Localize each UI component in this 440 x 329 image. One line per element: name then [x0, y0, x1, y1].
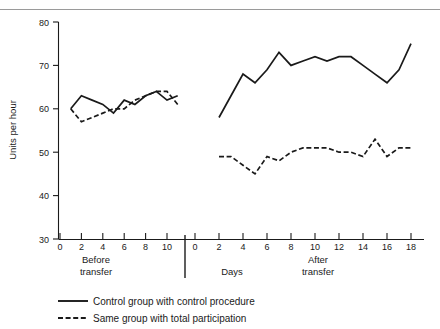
y-tick-label-40: 40	[39, 191, 49, 201]
y-axis: 80 70 60 50 40 30 Units per hour	[7, 18, 59, 245]
legend-label-total-participation: Same group with total participation	[93, 313, 246, 324]
x-tick-label-after-4: 4	[240, 242, 245, 252]
y-tick-label-30: 30	[39, 235, 49, 245]
after-transfer-label-line2: transfer	[302, 266, 334, 277]
region-label-after: After transfer	[302, 254, 334, 277]
x-axis-title: Days	[221, 266, 243, 277]
x-axis: 0 2 4 6 8 10 0 2 4 6 8 10 12 14 16	[57, 233, 424, 252]
x-tick-label-before-0: 0	[57, 242, 62, 252]
y-axis-title: Units per hour	[7, 100, 18, 160]
after-transfer-label-line1: After	[308, 254, 328, 265]
x-tick-label-before-4: 4	[100, 242, 105, 252]
x-tick-label-after-18: 18	[406, 242, 416, 252]
chart-legend: Control group with control procedure Sam…	[58, 296, 255, 324]
x-tick-label-before-2: 2	[79, 242, 84, 252]
series-group	[71, 44, 411, 174]
x-tick-label-after-14: 14	[358, 242, 368, 252]
series-after-control-group-solid	[219, 44, 411, 118]
series-before-control-group-solid	[71, 91, 178, 113]
y-tick-label-80: 80	[39, 18, 49, 28]
x-tick-label-after-12: 12	[334, 242, 344, 252]
y-tick-label-70: 70	[39, 61, 49, 71]
y-tick-label-60: 60	[39, 104, 49, 114]
x-tick-label-after-10: 10	[310, 242, 320, 252]
x-tick-label-before-8: 8	[143, 242, 148, 252]
x-tick-label-after-8: 8	[288, 242, 293, 252]
legend-label-control-group: Control group with control procedure	[93, 296, 255, 307]
x-tick-label-after-0: 0	[192, 242, 197, 252]
chart-figure: 80 70 60 50 40 30 Units per hour 0 2 4 6…	[0, 0, 440, 329]
x-tick-label-before-6: 6	[122, 242, 127, 252]
x-tick-label-after-2: 2	[216, 242, 221, 252]
chart-svg: 80 70 60 50 40 30 Units per hour 0 2 4 6…	[0, 0, 440, 329]
x-tick-label-before-10: 10	[162, 242, 172, 252]
x-tick-label-after-6: 6	[264, 242, 269, 252]
before-transfer-label-line1: Before	[82, 254, 110, 265]
series-after-total-participation-dashed	[219, 139, 411, 174]
region-label-before: Before transfer	[80, 254, 112, 277]
y-tick-label-50: 50	[39, 148, 49, 158]
before-transfer-label-line2: transfer	[80, 266, 112, 277]
x-tick-label-after-16: 16	[382, 242, 392, 252]
